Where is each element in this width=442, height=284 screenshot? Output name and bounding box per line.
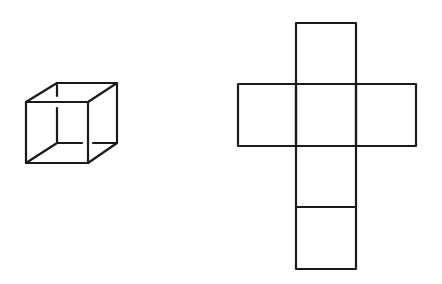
net-square-left [238, 84, 296, 146]
net-square-top [296, 23, 356, 84]
net-square-right [356, 84, 416, 146]
cube-edge [88, 83, 117, 102]
diagram-canvas [0, 0, 442, 284]
net-square-bottom [296, 207, 356, 269]
net-square-lower [296, 146, 356, 207]
cube-net [238, 23, 416, 269]
net-square-center [296, 84, 356, 146]
cube-edge [88, 143, 117, 163]
cube-edge [26, 83, 57, 102]
cube-drawing [26, 83, 117, 163]
cube-hidden-edge [26, 143, 57, 163]
